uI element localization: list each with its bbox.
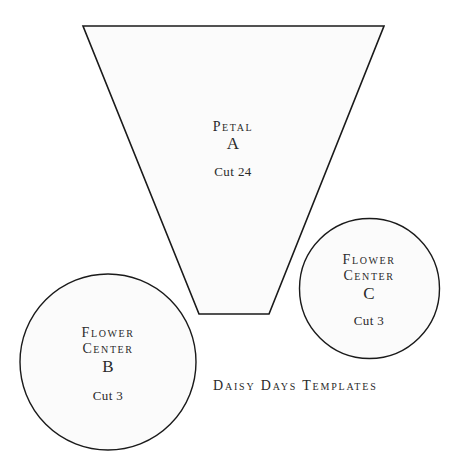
flower-center-c-cut-count: Cut 3 xyxy=(354,314,385,327)
flower-center-b-cut-count: Cut 3 xyxy=(93,389,124,402)
flower-center-c-name-line2: Center xyxy=(343,269,394,283)
template-title: Daisy Days Templates xyxy=(213,379,378,393)
petal-a-letter: A xyxy=(227,135,239,152)
flower-center-b-letter: B xyxy=(102,358,113,375)
petal-a-cut-count: Cut 24 xyxy=(214,165,251,178)
flower-center-b-name-line2: Center xyxy=(82,342,133,356)
flower-center-b-name-line1: Flower xyxy=(82,326,135,340)
flower-center-c-name-line1: Flower xyxy=(343,253,396,267)
flower-center-c-letter: C xyxy=(363,285,374,302)
petal-a-name: Petal xyxy=(213,120,254,134)
template-canvas xyxy=(0,0,462,473)
